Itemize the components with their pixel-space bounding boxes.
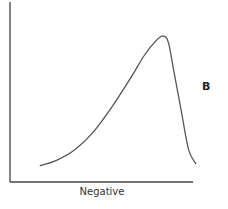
distribution-curve [40, 36, 196, 166]
panel-label: B [202, 80, 210, 93]
chart-plot-area [0, 0, 228, 209]
x-axis-label: Negative [0, 186, 204, 197]
